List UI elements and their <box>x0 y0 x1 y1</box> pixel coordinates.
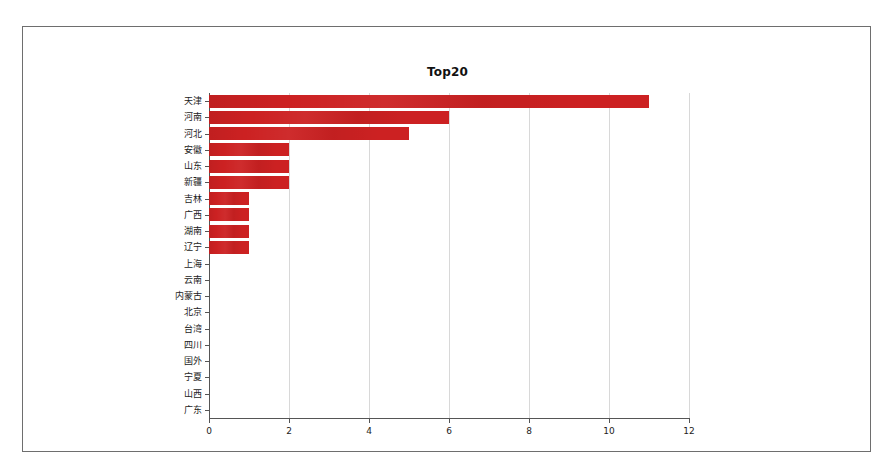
y-axis-label: 台湾 <box>184 321 202 337</box>
y-axis-label: 内蒙古 <box>175 288 202 304</box>
bar[interactable] <box>209 208 249 221</box>
y-axis-tick <box>205 394 209 395</box>
y-axis-label: 天津 <box>184 93 202 109</box>
bar[interactable] <box>209 143 289 156</box>
x-axis-tick <box>689 418 690 423</box>
y-axis-label: 云南 <box>184 272 202 288</box>
x-axis-tick <box>609 418 610 423</box>
y-axis-label: 宁夏 <box>184 369 202 385</box>
x-axis-tick <box>369 418 370 423</box>
x-axis-label: 8 <box>526 426 532 436</box>
y-axis-label: 新疆 <box>184 174 202 190</box>
y-axis-tick <box>205 345 209 346</box>
x-axis-label: 12 <box>683 426 694 436</box>
x-axis-tick <box>529 418 530 423</box>
bar-row[interactable]: 安徽 <box>209 142 689 158</box>
bar-row[interactable]: 吉林 <box>209 191 689 207</box>
y-axis-label: 山西 <box>184 386 202 402</box>
bar-row[interactable]: 云南 <box>209 272 689 288</box>
screenshot-canvas: Top20 天津河南河北安徽山东新疆吉林广西湖南辽宁上海云南内蒙古北京台湾四川国… <box>0 0 893 475</box>
y-axis-label: 安徽 <box>184 142 202 158</box>
bar-row[interactable]: 山东 <box>209 158 689 174</box>
bar-row[interactable]: 广东 <box>209 402 689 418</box>
bar-row[interactable]: 湖南 <box>209 223 689 239</box>
y-axis-label: 湖南 <box>184 223 202 239</box>
bar-row[interactable]: 天津 <box>209 93 689 109</box>
x-axis-tick <box>449 418 450 423</box>
y-axis-tick <box>205 264 209 265</box>
x-axis-label: 10 <box>603 426 614 436</box>
bar-row[interactable]: 河北 <box>209 126 689 142</box>
y-axis-label: 河北 <box>184 126 202 142</box>
bar-row[interactable]: 山西 <box>209 386 689 402</box>
bar-row[interactable]: 宁夏 <box>209 369 689 385</box>
y-axis-tick <box>205 312 209 313</box>
bar-row[interactable]: 河南 <box>209 109 689 125</box>
y-axis-label: 广东 <box>184 402 202 418</box>
figure-frame: Top20 天津河南河北安徽山东新疆吉林广西湖南辽宁上海云南内蒙古北京台湾四川国… <box>22 26 871 452</box>
bar-row[interactable]: 台湾 <box>209 321 689 337</box>
plot-area: 天津河南河北安徽山东新疆吉林广西湖南辽宁上海云南内蒙古北京台湾四川国外宁夏山西广… <box>209 93 689 418</box>
bar-row[interactable]: 国外 <box>209 353 689 369</box>
x-axis-tick <box>209 418 210 423</box>
y-axis-label: 辽宁 <box>184 239 202 255</box>
y-axis-tick <box>205 377 209 378</box>
bar[interactable] <box>209 176 289 189</box>
x-axis-label: 2 <box>286 426 292 436</box>
bar[interactable] <box>209 160 289 173</box>
x-axis-label: 6 <box>446 426 452 436</box>
y-axis-tick <box>205 410 209 411</box>
y-axis-label: 上海 <box>184 256 202 272</box>
bar[interactable] <box>209 111 449 124</box>
y-axis-label: 四川 <box>184 337 202 353</box>
y-axis-tick <box>205 361 209 362</box>
bar[interactable] <box>209 127 409 140</box>
y-axis-label: 河南 <box>184 109 202 125</box>
y-axis-tick <box>205 280 209 281</box>
bar-row[interactable]: 内蒙古 <box>209 288 689 304</box>
y-axis-tick <box>205 296 209 297</box>
y-axis-label: 山东 <box>184 158 202 174</box>
bar-row[interactable]: 四川 <box>209 337 689 353</box>
bar-row[interactable]: 辽宁 <box>209 239 689 255</box>
y-axis-label: 国外 <box>184 353 202 369</box>
y-axis-label: 广西 <box>184 207 202 223</box>
bar-row[interactable]: 广西 <box>209 207 689 223</box>
bar-row[interactable]: 北京 <box>209 304 689 320</box>
bar[interactable] <box>209 241 249 254</box>
bar-row[interactable]: 新疆 <box>209 174 689 190</box>
bar[interactable] <box>209 225 249 238</box>
bar-series: 天津河南河北安徽山东新疆吉林广西湖南辽宁上海云南内蒙古北京台湾四川国外宁夏山西广… <box>209 93 689 418</box>
bar-row[interactable]: 上海 <box>209 256 689 272</box>
y-axis-tick <box>205 329 209 330</box>
y-axis-label: 北京 <box>184 304 202 320</box>
y-axis-label: 吉林 <box>184 191 202 207</box>
x-axis-label: 0 <box>206 426 212 436</box>
chart-title: Top20 <box>23 65 872 79</box>
x-axis-label: 4 <box>366 426 372 436</box>
x-axis-tick <box>289 418 290 423</box>
bar[interactable] <box>209 95 649 108</box>
bar[interactable] <box>209 192 249 205</box>
gridline <box>689 93 690 418</box>
